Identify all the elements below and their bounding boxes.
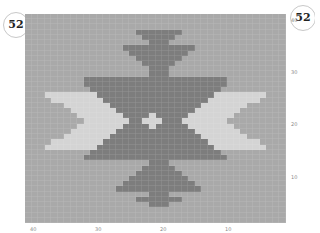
colorwork-chart-grid <box>25 14 286 223</box>
y-axis-label: 40 <box>291 17 297 23</box>
x-axis-label: 30 <box>95 226 101 232</box>
x-axis-label: 10 <box>225 226 231 232</box>
y-axis-label: 10 <box>291 174 297 180</box>
x-axis-label: 40 <box>30 226 36 232</box>
y-axis-label: 20 <box>291 121 297 127</box>
x-axis-label: 20 <box>160 226 166 232</box>
y-axis-label: 30 <box>291 69 297 75</box>
chart-cell <box>279 218 286 223</box>
